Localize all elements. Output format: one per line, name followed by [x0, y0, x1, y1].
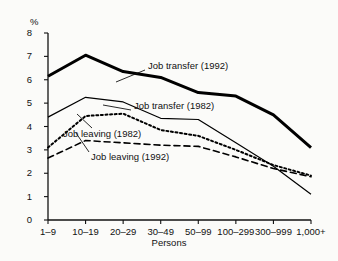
series-lines-group [48, 55, 311, 194]
x-axis-tick-label: 1,000+ [296, 227, 325, 237]
y-axis-tick-label: 0 [18, 215, 32, 225]
series-line-job-leaving-1992 [48, 141, 311, 177]
y-axis-tick-label: 7 [18, 51, 32, 61]
x-axis-tick-label: 30–49 [147, 227, 173, 237]
job-mobility-line-chart: % 012345678 1–910–1920–2930–4950–99100–2… [0, 0, 338, 261]
series-line-job-leaving-1982 [48, 114, 311, 176]
annotation-leader-lines [76, 70, 145, 152]
series-annotation-label: Job leaving (1992) [91, 152, 169, 162]
y-axis-tick-label: 6 [18, 75, 32, 85]
annotation-leader-line [103, 105, 131, 110]
x-axis-tick-label: 100–299 [217, 227, 254, 237]
x-axis-tick-label: 50–99 [185, 227, 211, 237]
x-axis-tick-label: 10–19 [72, 227, 98, 237]
y-axis-tick-label: 4 [18, 122, 32, 132]
x-axis-tick-label: 20–29 [110, 227, 136, 237]
x-axis-tick-label: 1–9 [40, 227, 56, 237]
series-annotation-label: Job leaving (1982) [63, 129, 141, 139]
y-axis-tick-label: 2 [18, 168, 32, 178]
y-axis-tick-label: 3 [18, 145, 32, 155]
series-annotation-label: Job transfer (1982) [134, 101, 214, 111]
y-axis-tick-label: 8 [18, 28, 32, 38]
plot-area [0, 0, 338, 261]
x-axis-tick-label: 300–999 [255, 227, 292, 237]
y-axis-tick-label: 1 [18, 192, 32, 202]
series-annotation-label: Job transfer (1992) [148, 61, 228, 71]
y-axis-tick-label: 5 [18, 98, 32, 108]
x-axis-title: Persons [0, 237, 338, 248]
